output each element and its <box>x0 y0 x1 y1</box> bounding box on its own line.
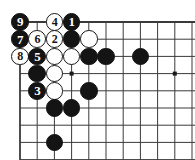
stone-black <box>63 99 81 117</box>
star-point-upper-left-icon <box>70 72 74 76</box>
go-board-diagram: 941762853 <box>0 0 195 160</box>
numbered-stone-black-1: 1 <box>63 13 81 31</box>
numbered-stone-black-3: 3 <box>28 82 46 100</box>
stone-move-number: 5 <box>34 49 40 62</box>
goban-grid <box>0 0 195 160</box>
stone-move-number: 1 <box>69 15 75 28</box>
stone-black <box>80 82 98 100</box>
stone-move-number: 8 <box>17 50 23 62</box>
star-point-upper-right-icon <box>173 72 177 76</box>
stone-white <box>46 82 64 100</box>
stone-white <box>80 30 98 48</box>
stone-black <box>97 48 115 66</box>
stone-move-number: 6 <box>34 33 40 45</box>
numbered-stone-white-6: 6 <box>28 30 46 48</box>
stone-move-number: 7 <box>17 32 23 45</box>
numbered-stone-white-4: 4 <box>46 13 64 31</box>
stone-black <box>46 99 64 117</box>
numbered-stone-black-5: 5 <box>28 48 46 66</box>
stone-move-number: 9 <box>17 15 23 28</box>
stone-move-number: 3 <box>34 84 40 97</box>
stone-move-number: 2 <box>52 33 58 45</box>
numbered-stone-black-9: 9 <box>11 13 29 31</box>
numbered-stone-black-7: 7 <box>11 30 29 48</box>
numbered-stone-white-8: 8 <box>11 48 29 66</box>
numbered-stone-white-2: 2 <box>46 30 64 48</box>
stone-black <box>80 48 98 66</box>
stone-move-number: 4 <box>52 15 58 27</box>
